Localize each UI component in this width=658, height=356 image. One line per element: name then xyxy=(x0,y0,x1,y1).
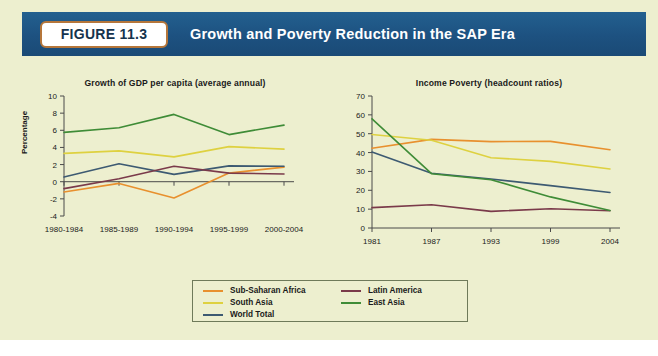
svg-text:20: 20 xyxy=(356,186,365,195)
svg-text:1987: 1987 xyxy=(423,237,441,246)
figure-banner: FIGURE 11.3 Growth and Poverty Reduction… xyxy=(22,12,646,56)
legend-label: Sub-Saharan Africa xyxy=(230,286,306,295)
page-bottom-margin xyxy=(0,340,658,356)
legend-label: South Asia xyxy=(230,298,272,307)
svg-text:1993: 1993 xyxy=(482,237,500,246)
svg-text:70: 70 xyxy=(356,92,365,101)
chart-panel-poverty: Income Poverty (headcount ratios) 010203… xyxy=(330,62,648,262)
legend-item: World Total xyxy=(203,309,306,321)
legend-label: East Asia xyxy=(368,298,405,307)
chart-plot-poverty: 01020304050607019811987199319992004 xyxy=(330,88,648,258)
svg-text:40: 40 xyxy=(356,149,365,158)
legend-swatch-latin-america xyxy=(341,290,361,292)
chart-title-growth: Growth of GDP per capita (average annual… xyxy=(16,78,334,88)
svg-text:1985-1989: 1985-1989 xyxy=(100,225,139,234)
legend-swatch-east-asia xyxy=(341,302,361,304)
svg-text:2004: 2004 xyxy=(601,237,619,246)
svg-text:8: 8 xyxy=(53,109,58,118)
svg-text:10: 10 xyxy=(48,92,57,101)
figure-number-label: FIGURE 11.3 xyxy=(61,26,148,42)
svg-text:-4: -4 xyxy=(50,212,58,221)
svg-text:6: 6 xyxy=(53,126,58,135)
svg-text:1990-1994: 1990-1994 xyxy=(155,225,194,234)
legend-label: Latin America xyxy=(368,286,422,295)
legend-column-2: Latin America East Asia xyxy=(341,285,422,309)
figure-number-badge: FIGURE 11.3 xyxy=(40,21,168,48)
legend-column-1: Sub-Saharan Africa South Asia World Tota… xyxy=(203,285,306,321)
figure-root: FIGURE 11.3 Growth and Poverty Reduction… xyxy=(0,0,658,356)
legend-item: South Asia xyxy=(203,297,306,309)
svg-text:1980-1984: 1980-1984 xyxy=(45,225,84,234)
chart-plot-growth: -4-202468101980-19841985-19891990-199419… xyxy=(16,88,334,258)
legend-swatch-south-asia xyxy=(203,302,223,304)
chart-legend: Sub-Saharan Africa South Asia World Tota… xyxy=(192,280,468,322)
svg-text:1995-1999: 1995-1999 xyxy=(210,225,249,234)
svg-text:10: 10 xyxy=(356,205,365,214)
legend-item: East Asia xyxy=(341,297,422,309)
svg-text:0: 0 xyxy=(53,178,58,187)
legend-swatch-world-total xyxy=(203,314,223,316)
legend-item: Sub-Saharan Africa xyxy=(203,285,306,297)
chart-title-poverty: Income Poverty (headcount ratios) xyxy=(330,78,648,88)
charts-area: Growth of GDP per capita (average annual… xyxy=(0,62,658,262)
legend-label: World Total xyxy=(230,310,274,319)
svg-text:2: 2 xyxy=(53,161,58,170)
svg-text:50: 50 xyxy=(356,130,365,139)
svg-text:30: 30 xyxy=(356,167,365,176)
chart-panel-growth: Growth of GDP per capita (average annual… xyxy=(16,62,334,262)
legend-item: Latin America xyxy=(341,285,422,297)
svg-text:-2: -2 xyxy=(50,195,58,204)
svg-text:0: 0 xyxy=(361,224,366,233)
svg-text:60: 60 xyxy=(356,111,365,120)
figure-title: Growth and Poverty Reduction in the SAP … xyxy=(190,26,515,42)
svg-text:1999: 1999 xyxy=(542,237,560,246)
legend-swatch-sub-saharan-africa xyxy=(203,290,223,292)
svg-text:4: 4 xyxy=(53,143,58,152)
svg-text:1981: 1981 xyxy=(363,237,381,246)
svg-text:2000-2004: 2000-2004 xyxy=(265,225,304,234)
